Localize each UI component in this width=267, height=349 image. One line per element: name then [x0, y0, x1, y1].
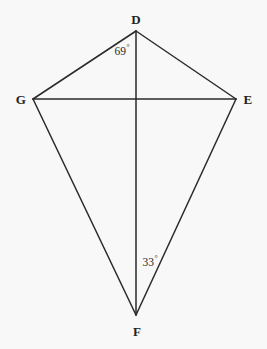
geometry-diagram: D G E F 69° 33° [0, 0, 267, 349]
angle-label-GDF: 69° [114, 44, 129, 57]
degree-symbol-GDF: ° [126, 43, 130, 52]
segment-GF [33, 99, 136, 315]
vertex-label-G: G [16, 93, 26, 106]
segment-DG [33, 31, 136, 99]
vertex-label-D: D [131, 13, 141, 26]
degree-symbol-GFD: ° [154, 254, 158, 263]
segment-DE [136, 31, 236, 99]
angle-value-GDF: 69 [114, 45, 126, 57]
vertex-label-F: F [133, 325, 141, 338]
angle-value-GFD: 33 [142, 256, 154, 268]
kite-figure [0, 0, 267, 349]
segment-EF [136, 99, 236, 315]
angle-label-GFD: 33° [142, 255, 157, 268]
vertex-label-E: E [244, 93, 253, 106]
